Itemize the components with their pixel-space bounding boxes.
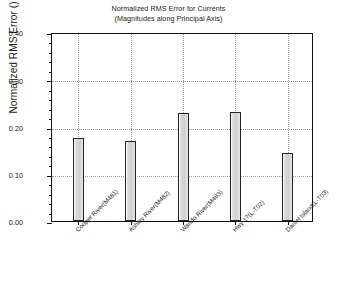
chart-figure: Normalized RMS Error for Currents (Magni… (0, 0, 337, 285)
y-tick-minor (49, 166, 52, 167)
gridline-horizontal (52, 81, 312, 82)
y-tick-major (47, 176, 52, 177)
y-tick-minor (49, 53, 52, 54)
y-tick-minor (49, 214, 52, 215)
y-tick-minor (49, 91, 52, 92)
y-tick-minor (49, 43, 52, 44)
y-tick-label: 0.40 (0, 30, 23, 37)
chart-title-line1: Normalized RMS Error for Currents (112, 4, 226, 13)
y-tick-label: 0.20 (0, 125, 23, 132)
y-tick-major (47, 34, 52, 35)
y-tick-label: 0.10 (0, 172, 23, 179)
bar (282, 153, 293, 221)
y-tick-minor (49, 110, 52, 111)
plot-area: 0.400.300.200.100.00 (51, 33, 313, 222)
y-tick-major (47, 81, 52, 82)
y-tick-minor (49, 62, 52, 63)
y-tick-minor (49, 138, 52, 139)
y-tick-minor (49, 72, 52, 73)
y-tick-minor (49, 119, 52, 120)
bar (73, 138, 84, 221)
y-tick-label: 0.00 (0, 219, 23, 226)
bar (178, 113, 189, 221)
y-tick-major (47, 129, 52, 130)
y-tick-minor (49, 185, 52, 186)
y-tick-major (47, 223, 52, 224)
y-tick-minor (49, 100, 52, 101)
y-tick-minor (49, 157, 52, 158)
chart-title: Normalized RMS Error for Currents (Magni… (0, 4, 337, 23)
y-tick-minor (49, 204, 52, 205)
y-axis-title: Normalized RMS Error () (8, 0, 19, 133)
x-axis-tick-labels: Cooper River(M481)Ashley River(M482)Wand… (51, 228, 313, 285)
y-tick-label: 0.30 (0, 78, 23, 85)
bar (230, 112, 241, 221)
bar (125, 141, 136, 221)
y-tick-minor (49, 195, 52, 196)
chart-title-line2: (Magnitudes along Principal Axis) (0, 14, 337, 24)
y-tick-minor (49, 147, 52, 148)
